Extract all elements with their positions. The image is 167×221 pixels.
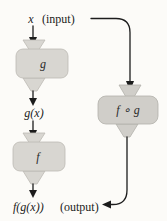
output-expression-label: f(g(x)) <box>13 200 44 214</box>
diagram-function-composition: x (input) g g(x) f <box>0 0 167 221</box>
machine-fog-label: f ∘ g <box>116 103 139 117</box>
machine-g-label: g <box>40 57 46 71</box>
diagram-canvas: x (input) g g(x) f <box>0 0 167 221</box>
output-annotation-label: (output) <box>60 200 99 214</box>
input-annotation-label: (input) <box>42 12 75 26</box>
intermediate-expression-label: g(x) <box>24 106 43 120</box>
input-variable-label: x <box>27 12 34 26</box>
